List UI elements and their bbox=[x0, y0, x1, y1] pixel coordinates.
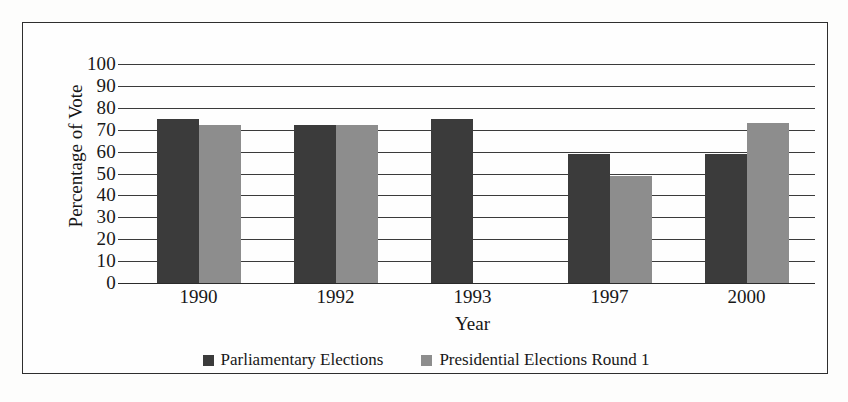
x-axis-tick-label: 1990 bbox=[139, 286, 259, 308]
y-axis-tick-label: 30 bbox=[72, 207, 116, 226]
x-axis-tick-label: 2000 bbox=[687, 286, 807, 308]
x-axis-tick-label: 1992 bbox=[276, 286, 396, 308]
y-axis-tick-label: 40 bbox=[72, 185, 116, 204]
y-axis-tick-label: 20 bbox=[72, 229, 116, 248]
x-axis-tick-labels: 19901992199319972000 bbox=[130, 286, 815, 314]
y-axis-tick-label: 70 bbox=[72, 120, 116, 139]
legend-item: Parliamentary Elections bbox=[203, 350, 384, 370]
legend-label: Parliamentary Elections bbox=[221, 350, 384, 370]
bar bbox=[336, 125, 378, 283]
y-axis-tick-label: 100 bbox=[72, 54, 116, 73]
bar bbox=[705, 154, 747, 283]
chart-figure: Percentage of Vote 100908070605040302010… bbox=[0, 0, 848, 402]
y-axis-tick-label: 60 bbox=[72, 142, 116, 161]
legend-swatch-dark-icon bbox=[203, 355, 214, 366]
chart-legend: Parliamentary ElectionsPresidential Elec… bbox=[23, 350, 829, 370]
x-axis-title: Year bbox=[130, 313, 815, 335]
bar-group bbox=[130, 64, 267, 283]
x-axis-tick-label: 1993 bbox=[413, 286, 533, 308]
bar-group bbox=[404, 64, 541, 283]
bar bbox=[199, 125, 241, 283]
legend-label: Presidential Elections Round 1 bbox=[439, 350, 649, 370]
bar-group bbox=[267, 64, 404, 283]
axis-baseline bbox=[118, 283, 815, 284]
chart-frame: Percentage of Vote 100908070605040302010… bbox=[22, 22, 828, 374]
legend-swatch-gray-icon bbox=[421, 355, 432, 366]
bar bbox=[431, 119, 473, 283]
x-axis-tick-label: 1997 bbox=[550, 286, 670, 308]
y-axis-tick-label: 0 bbox=[72, 273, 116, 292]
legend-item: Presidential Elections Round 1 bbox=[421, 350, 649, 370]
y-axis-tick-label: 10 bbox=[72, 251, 116, 270]
bar bbox=[157, 119, 199, 283]
y-axis-tick-label: 80 bbox=[72, 98, 116, 117]
bar bbox=[568, 154, 610, 283]
bar bbox=[747, 123, 789, 283]
y-axis-tick-label: 90 bbox=[72, 76, 116, 95]
y-axis-tick-label: 50 bbox=[72, 164, 116, 183]
bar-group bbox=[541, 64, 678, 283]
bar-group bbox=[678, 64, 815, 283]
bar bbox=[294, 125, 336, 283]
y-axis-tick-labels: 1009080706050403020100 bbox=[68, 64, 116, 283]
bar bbox=[610, 176, 652, 283]
plot-area bbox=[130, 64, 815, 283]
